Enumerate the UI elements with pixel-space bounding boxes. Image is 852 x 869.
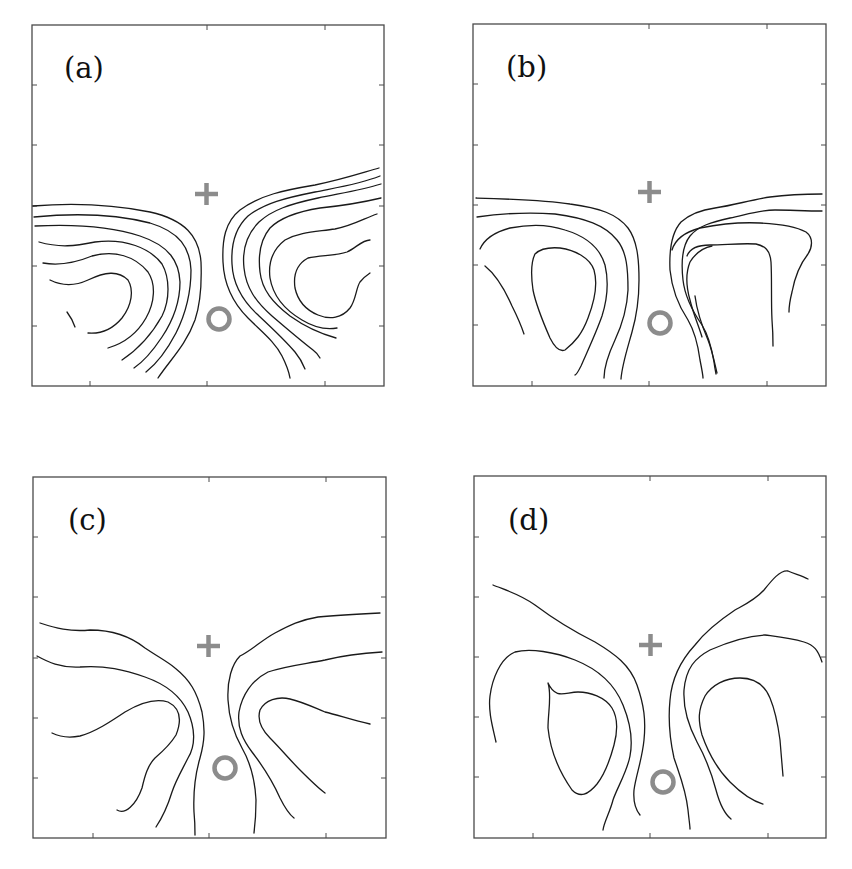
panel-b-contours: [476, 194, 822, 379]
panel-d-label: (d): [508, 503, 549, 537]
panel-b-label: (b): [506, 50, 547, 84]
figure-four-panel-contours: (a): [0, 0, 852, 869]
panel-d-circle-marker: [653, 772, 674, 793]
panel-d: (d): [474, 476, 826, 838]
panel-a-label: (a): [64, 51, 104, 85]
panel-b-circle-marker: [650, 313, 671, 334]
panel-d-plus-marker: [639, 634, 662, 656]
panel-c-plus-marker: [197, 635, 220, 657]
panel-c: (c): [33, 477, 386, 838]
panel-b-plus-marker: [638, 181, 661, 203]
panel-c-circle-marker: [215, 758, 236, 779]
panel-c-label: (c): [68, 503, 107, 537]
panel-b: (b): [473, 24, 826, 386]
panel-a-plus-marker: [195, 183, 218, 205]
panel-a-circle-marker: [209, 309, 230, 330]
panel-a: (a): [32, 25, 384, 386]
